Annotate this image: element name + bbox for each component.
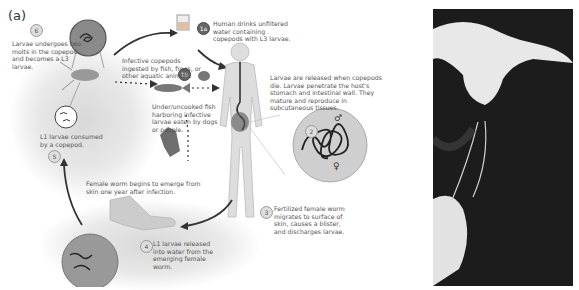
copepod-icon bbox=[71, 69, 99, 81]
step-1b-fish-text: Under/uncooked fish harboring infective … bbox=[152, 103, 218, 133]
male-symbol: ♂ bbox=[334, 115, 342, 123]
step-6-badge: 6 bbox=[30, 24, 43, 37]
step-4-badge: 4 bbox=[140, 240, 153, 253]
fish-icon bbox=[154, 84, 182, 92]
step-6-text: Larvae undergoes two molts in the copepo… bbox=[12, 40, 84, 70]
step-2-badge: 2 bbox=[305, 125, 318, 138]
step-3-badge: 3 bbox=[260, 206, 273, 219]
step-1a-text: Human drinks unfiltered water containing… bbox=[213, 20, 293, 43]
step-1a-badge: 1a bbox=[197, 22, 210, 35]
larvae-in-water-icon bbox=[55, 106, 77, 128]
emerging-worm-zoom-icon bbox=[62, 234, 118, 287]
foot-icon bbox=[110, 196, 175, 230]
step-2-text: Larvae are released when copepods die. L… bbox=[270, 74, 382, 112]
female-emerges-text: Female worm begins to emerge from skin o… bbox=[86, 180, 202, 195]
step-4-text: L1 larvae released into water from the e… bbox=[153, 240, 217, 270]
step-5-badge: 5 bbox=[48, 150, 61, 163]
female-symbol: ♀ bbox=[333, 163, 340, 171]
step-5-text: L1 larvae consumed by a copepod. bbox=[40, 133, 106, 148]
step-1b-text: Infective copepods ingested by fish, fro… bbox=[122, 57, 202, 80]
guinea-worm-extraction-photo bbox=[433, 9, 573, 286]
step-3-text: Fertilized female worm migrates to surfa… bbox=[274, 205, 350, 235]
